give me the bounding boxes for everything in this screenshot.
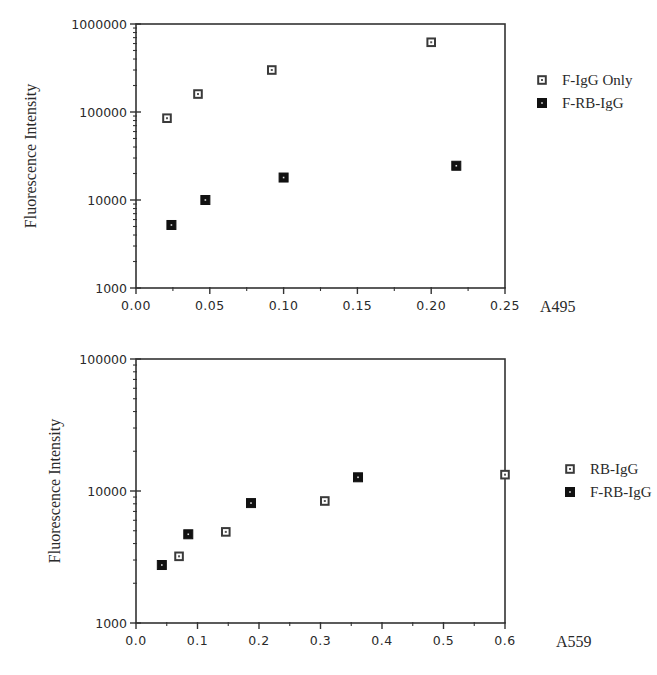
y-axis-title: Fluorescence Intensity [46,419,64,563]
data-point-dot [504,474,506,476]
x-axis-title: A495 [540,298,576,315]
data-point [501,471,509,479]
data-point-dot [455,165,457,167]
x-tick-label: 0.1 [187,633,208,648]
data-point [163,114,171,122]
plot-frame [136,359,505,623]
data-point [268,66,276,74]
x-axis-title: A559 [556,633,592,650]
data-point-dot [283,177,285,179]
legend-label: F-IgG Only [562,72,633,88]
data-point-dot [225,531,227,533]
x-tick-label: 0.2 [248,633,269,648]
series-0 [163,38,435,122]
bottom-chart: 1000100001000000.00.10.20.30.40.50.6Fluo… [46,352,652,651]
data-point [201,196,210,205]
legend-label: F-RB-IgG [590,484,652,500]
x-tick-label: 0.3 [310,633,331,648]
series-1 [157,473,362,570]
legend-label: F-RB-IgG [562,95,624,111]
x-tick-label: 0.20 [416,298,446,313]
data-point [194,90,202,98]
legend-label: RB-IgG [590,461,639,477]
figure: 10001000010000010000000.000.050.100.150.… [0,0,657,675]
data-point [167,220,176,229]
x-tick-label: 0.25 [490,298,520,313]
y-tick-label: 1000 [95,616,127,631]
y-tick-label: 10000 [87,193,127,208]
data-point-dot [205,199,207,201]
data-point-dot [187,533,189,535]
data-point-dot [357,476,359,478]
data-point [184,530,193,539]
y-tick-label: 10000 [87,484,127,499]
data-point [354,473,363,482]
data-point-dot [197,93,199,95]
legend-marker-dot [569,468,571,470]
x-tick-label: 0.05 [195,298,225,313]
data-point [157,561,166,570]
top-chart: 10001000010000010000000.000.050.100.150.… [22,17,633,316]
plot-frame [136,24,505,288]
data-point [247,499,256,508]
data-point-dot [430,41,432,43]
data-point-dot [250,502,252,504]
data-point-dot [271,69,273,71]
legend-marker [538,99,547,108]
x-tick-label: 0.4 [371,633,392,648]
x-tick-label: 0.00 [121,298,151,313]
legend-marker-dot [541,102,543,104]
y-tick-label: 1000 [95,281,127,296]
legend-marker [566,465,574,473]
x-tick-label: 0.5 [433,633,454,648]
data-point [279,173,288,182]
data-point-dot [161,564,163,566]
data-point-dot [171,224,173,226]
legend-marker-dot [569,491,571,493]
legend-marker-dot [541,79,543,81]
y-tick-label: 100000 [79,105,127,120]
x-tick-label: 0.10 [269,298,299,313]
series-1 [167,161,461,229]
x-tick-label: 0.6 [494,633,515,648]
y-axis-title: Fluorescence Intensity [22,84,40,228]
x-tick-label: 0.15 [342,298,372,313]
series-0 [175,471,509,560]
legend-marker [538,76,546,84]
y-tick-label: 1000000 [71,17,127,32]
data-point [452,161,461,170]
data-point [222,528,230,536]
data-point [427,38,435,46]
data-point [175,553,183,561]
y-tick-label: 100000 [79,352,127,367]
data-point-dot [324,500,326,502]
data-point [321,497,329,505]
x-tick-label: 0.0 [125,633,146,648]
data-point-dot [166,117,168,119]
data-point-dot [178,555,180,557]
legend-marker [566,488,575,497]
